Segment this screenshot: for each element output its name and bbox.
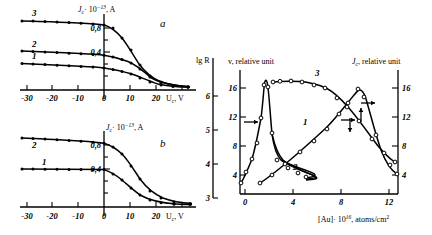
lgR-axis-title: lg R xyxy=(196,56,210,65)
panel-a-curve-3 xyxy=(22,21,190,87)
panel-a-xtick-4: 10 xyxy=(126,93,135,103)
figure-svg: -30 -20 -10 0 10 20 0,8 0,4 Jc· 10−13, A… xyxy=(0,0,432,235)
right-panel-right-axis-title: Jc, relative unit xyxy=(352,57,401,67)
right-panel: lg R 6 5 4 3 16 12 8 4 v, relative unit … xyxy=(196,56,411,224)
panel-b-xtick-3: 0 xyxy=(102,211,107,221)
right-panel-curve-2 xyxy=(241,80,317,183)
panel-b-points-1 xyxy=(21,168,192,207)
panel-b-curve-label-2: 2 xyxy=(31,140,37,150)
panel-b-ylabel-mult: · 10 xyxy=(112,123,125,132)
panel-a-curve-label-2: 2 xyxy=(31,39,37,49)
lgR-axis-ticks xyxy=(213,96,218,198)
panel-b-xtick-4: 10 xyxy=(126,211,135,221)
right-panel-xtick-0: 0 xyxy=(243,197,248,207)
right-panel-x-ticks xyxy=(245,189,389,194)
panel-b: -30 -20 -10 0 10 20 0,8 0,4 Jc· 10−13, A… xyxy=(20,122,196,222)
right-panel-left-tick-16: 16 xyxy=(229,83,238,93)
panel-a-ylabel-mult: · 10 xyxy=(84,5,97,14)
panel-b-x-axis-title: Uc, V xyxy=(166,212,184,222)
panel-a-xtick-2: -10 xyxy=(72,93,84,103)
panel-a-xlabel-unit: , V xyxy=(174,94,184,103)
right-panel-left-tick-12: 12 xyxy=(229,112,238,122)
panel-b-xlabel-unit: , V xyxy=(174,212,184,221)
right-panel-right-tick-4: 4 xyxy=(401,170,406,180)
right-panel-xlabel-unit: , atoms/cm xyxy=(351,215,387,224)
right-panel-right-tick-8: 8 xyxy=(402,141,407,151)
panel-a-xtick-1: -20 xyxy=(46,93,58,103)
arrow-right-curve1 xyxy=(341,118,355,123)
figure-container: -30 -20 -10 0 10 20 0,8 0,4 Jc· 10−13, A… xyxy=(0,0,432,235)
panel-b-ylabel-exp: −13 xyxy=(125,122,134,128)
right-panel-xtick-1: 4 xyxy=(290,197,295,207)
panel-a-ylabel-exp: −13 xyxy=(97,4,106,10)
right-panel-xlabel-mult: · 10 xyxy=(333,215,346,224)
svg-text:Jc· 10−13, A: Jc· 10−13, A xyxy=(78,4,115,15)
panel-b-xtick-5: 20 xyxy=(151,211,161,221)
panel-b-curve-label-1: 1 xyxy=(42,157,47,167)
right-panel-xtick-2: 8 xyxy=(339,197,344,207)
right-panel-points-3 xyxy=(271,79,397,164)
panel-a-xtick-0: -30 xyxy=(21,93,33,103)
panel-a-xtick-3: 0 xyxy=(102,93,107,103)
panel-b-label: b xyxy=(160,137,166,149)
right-panel-right-tick-12: 12 xyxy=(402,112,411,122)
panel-a-curve-label-3: 3 xyxy=(31,8,37,18)
panel-a-xtick-5: 20 xyxy=(151,93,161,103)
right-panel-right-title-rest: , relative unit xyxy=(358,57,401,66)
lgR-tick-2: 4 xyxy=(205,159,210,169)
right-panel-xlabel-pre: [Au] xyxy=(318,215,333,224)
panel-b-xtick-1: -20 xyxy=(46,211,58,221)
panel-b-xtick-0: -30 xyxy=(21,211,33,221)
panel-b-xtick-2: -10 xyxy=(72,211,84,221)
right-panel-x-axis-title: [Au]· 1016, atoms/cm2 xyxy=(318,214,389,224)
right-panel-points-1 xyxy=(258,87,399,185)
right-panel-left-tick-4: 4 xyxy=(232,170,237,180)
panel-a-y-axis-title: Jc· 10−13, A xyxy=(78,4,115,15)
right-panel-curve-label-1: 1 xyxy=(303,117,308,127)
arrow-right-curve2 xyxy=(244,120,258,125)
panel-b-y-axis-title: Jc· 10−13, A xyxy=(106,122,143,133)
panel-b-ylabel-unit: , A xyxy=(134,123,144,132)
panel-a: -30 -20 -10 0 10 20 0,8 0,4 Jc· 10−13, A… xyxy=(20,4,196,104)
panel-a-label: a xyxy=(160,17,166,29)
lgR-tick-1: 5 xyxy=(206,125,211,135)
right-panel-left-tick-8: 8 xyxy=(233,141,238,151)
right-panel-xlabel-unit-exp: 2 xyxy=(386,214,389,220)
lgR-tick-3: 3 xyxy=(205,193,211,203)
right-panel-curve-label-3: 3 xyxy=(314,68,320,78)
right-panel-right-tick-16: 16 xyxy=(402,83,411,93)
panel-a-x-axis-title: Uc, V xyxy=(166,94,184,104)
right-panel-left-ticks xyxy=(240,88,246,175)
right-panel-left-axis-title: v, relative unit xyxy=(228,57,275,66)
lgR-tick-0: 6 xyxy=(206,91,211,101)
panel-a-curve-label-1: 1 xyxy=(32,51,37,61)
right-panel-curve-label-2: 2 xyxy=(292,162,298,172)
panel-a-points-3 xyxy=(21,20,190,89)
right-panel-xtick-3: 12 xyxy=(385,197,394,207)
right-panel-curve-3 xyxy=(273,81,396,163)
panel-a-ylabel-unit: , A xyxy=(106,5,116,14)
